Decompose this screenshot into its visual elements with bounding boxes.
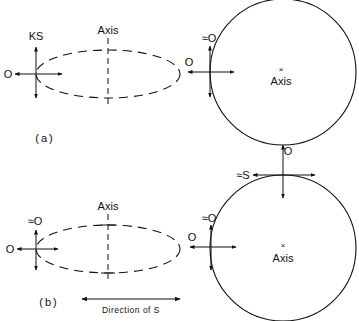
ellipse-horizontal-label-b: O	[6, 243, 15, 255]
diagram-canvas: Axis KS O (a) × Axis ≈O O Axis ≈O	[0, 0, 359, 321]
circle-left-horizontal-label-b: O	[188, 231, 197, 243]
ellipse-vertical-label-b: ≈O	[28, 215, 43, 227]
circle-axis-label-b: Axis	[273, 252, 294, 264]
ellipse-horizontal-label-a: O	[4, 68, 13, 80]
circle-left-vertical-label-b: ≈O	[202, 212, 217, 224]
caption-b: (b)	[39, 296, 58, 308]
circle-axis-marker-a: ×	[279, 65, 284, 74]
ellipse-vertical-label-a: KS	[29, 30, 44, 42]
panel-b: Axis ≈O O (b) Direction of S × Axis ≈O O…	[6, 145, 356, 321]
ellipse-axis-label-b: Axis	[98, 200, 119, 212]
circle-top-vertical-label-b: O	[284, 145, 293, 157]
caption-a: (a)	[35, 132, 54, 144]
circle-top-horizontal-label-b: ≈S	[236, 169, 249, 181]
ellipse-axis-label-a: Axis	[98, 24, 119, 36]
diagram-svg: Axis KS O (a) × Axis ≈O O Axis ≈O	[0, 0, 359, 321]
circle-axis-marker-b: ×	[281, 241, 286, 250]
circle-axis-label-a: Axis	[271, 75, 292, 87]
circle-vertical-label-a: ≈O	[202, 32, 217, 44]
circle-horizontal-label-a: O	[185, 56, 194, 68]
direction-label: Direction of S	[102, 305, 160, 315]
panel-a: Axis KS O (a) × Axis ≈O O	[4, 0, 356, 145]
